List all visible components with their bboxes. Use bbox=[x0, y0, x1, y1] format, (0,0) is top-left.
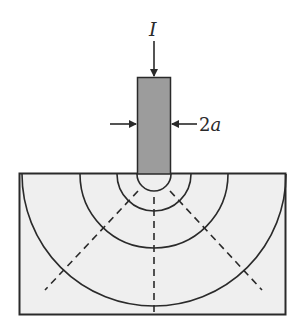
width-label-text: 2 bbox=[199, 114, 210, 135]
width-label: 2a bbox=[199, 114, 221, 135]
current-label: I bbox=[148, 18, 157, 40]
electrode-diagram: I 2a bbox=[0, 0, 302, 331]
conducting-medium bbox=[20, 174, 286, 315]
electrode bbox=[137, 77, 171, 191]
